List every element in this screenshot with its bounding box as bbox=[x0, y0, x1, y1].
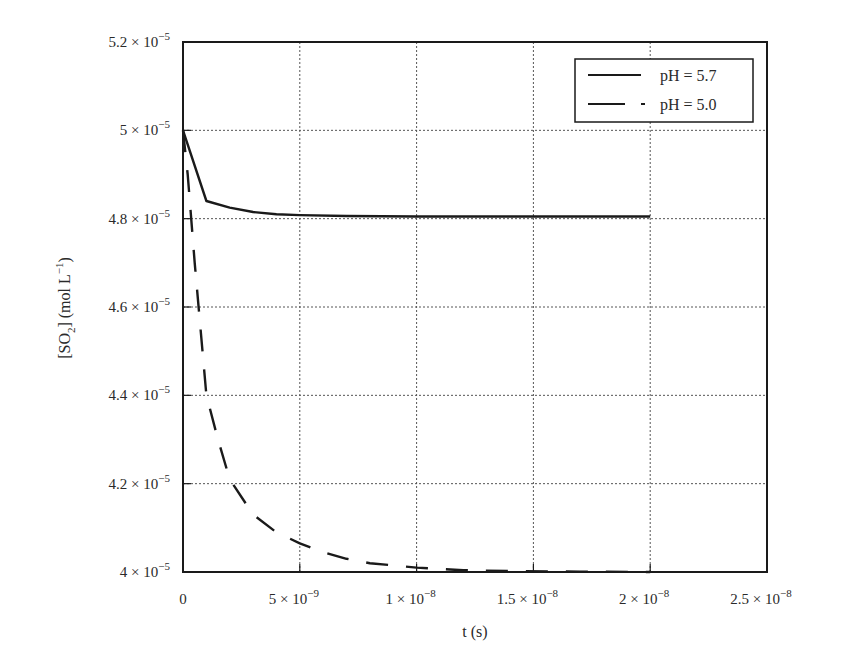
y-tick-label: 4.2 × 10−5 bbox=[109, 472, 171, 492]
legend-item-ph50: pH = 5.0 bbox=[660, 96, 717, 114]
y-tick-label: 4.4 × 10−5 bbox=[109, 383, 171, 403]
y-tick-label: 4.6 × 10−5 bbox=[109, 295, 171, 315]
line-chart: 05 × 10−91 × 10−81.5 × 10−82 × 10−82.5 ×… bbox=[0, 0, 861, 665]
x-tick-label: 0 bbox=[179, 591, 187, 607]
x-tick-label: 1 × 10−8 bbox=[386, 587, 437, 607]
x-tick-label: 1.5 × 10−8 bbox=[497, 587, 559, 607]
x-axis-label: t (s) bbox=[462, 623, 487, 641]
y-tick-label: 5 × 10−5 bbox=[120, 118, 171, 138]
x-tick-label: 5 × 10−9 bbox=[269, 587, 320, 607]
svg-text:[SO2] (mol L−1): [SO2] (mol L−1) bbox=[53, 257, 77, 359]
x-tick-label: 2 × 10−8 bbox=[619, 587, 670, 607]
legend: pH = 5.7 pH = 5.0 bbox=[575, 59, 753, 122]
y-axis-label: [SO2] (mol L−1) bbox=[53, 257, 77, 359]
y-tick-label: 4 × 10−5 bbox=[120, 560, 171, 580]
x-tick-labels: 05 × 10−91 × 10−81.5 × 10−82 × 10−82.5 ×… bbox=[179, 587, 792, 607]
legend-item-ph57: pH = 5.7 bbox=[660, 67, 717, 85]
y-tick-label: 5.2 × 10−5 bbox=[109, 30, 171, 50]
y-tick-label: 4.8 × 10−5 bbox=[109, 207, 171, 227]
x-tick-label: 2.5 × 10−8 bbox=[730, 587, 792, 607]
y-tick-labels: 4 × 10−54.2 × 10−54.4 × 10−54.6 × 10−54.… bbox=[109, 30, 171, 580]
